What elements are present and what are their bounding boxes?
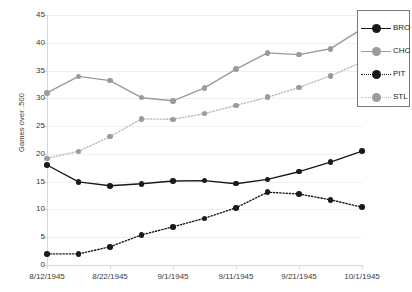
data-point-stl (170, 117, 176, 123)
legend-marker-pit (372, 70, 381, 79)
data-point-bro (76, 179, 82, 185)
data-point-chc (265, 50, 271, 56)
data-point-bro (107, 183, 113, 189)
data-point-bro (170, 178, 176, 184)
x-axis-tick (173, 265, 174, 269)
data-point-bro (359, 148, 365, 154)
data-point-chc (233, 66, 239, 72)
data-point-pit (139, 232, 145, 238)
data-point-pit (296, 191, 302, 197)
data-point-chc (328, 46, 334, 52)
data-point-pit (44, 251, 50, 257)
legend-label-pit: PIT (393, 68, 405, 80)
data-point-chc (296, 52, 302, 58)
data-point-bro (44, 162, 50, 168)
x-axis-tick-label: 8/22/1945 (75, 272, 145, 281)
data-point-stl (233, 103, 239, 109)
legend-marker-bro (372, 24, 381, 33)
data-point-stl (296, 85, 302, 91)
x-axis-tick-label: 9/1/1945 (138, 272, 208, 281)
data-point-chc (44, 90, 50, 96)
x-axis-tick-label: 9/21/1945 (264, 272, 334, 281)
data-point-pit (328, 197, 334, 203)
legend-marker-chc (372, 47, 381, 56)
legend-item-stl[interactable]: STL (358, 88, 411, 108)
series-lines (0, 0, 412, 292)
x-axis-tick-label: 9/11/1945 (201, 272, 271, 281)
legend-item-chc[interactable]: CHC (358, 42, 411, 62)
x-axis-tick (47, 265, 48, 269)
legend-item-bro[interactable]: BRO (358, 19, 411, 39)
data-point-chc (107, 78, 113, 84)
legend-label-bro: BRO (393, 22, 410, 34)
data-point-pit (170, 224, 176, 230)
data-point-pit (76, 251, 82, 257)
data-point-pit (107, 244, 113, 250)
chart-container: Games over .500 051015202530354045 8/12/… (0, 0, 412, 292)
data-point-stl (328, 73, 334, 79)
data-point-stl (107, 134, 113, 140)
legend: BROCHCPITSTL (357, 10, 410, 107)
legend-item-pit[interactable]: PIT (358, 65, 411, 85)
legend-label-chc: CHC (393, 45, 410, 57)
x-axis-tick (362, 265, 363, 269)
x-axis-tick (110, 265, 111, 269)
data-point-pit (359, 204, 365, 210)
x-axis-tick-label: 10/1/1945 (327, 272, 397, 281)
data-point-chc (170, 98, 176, 104)
series-line-pit (47, 192, 362, 254)
data-point-stl (139, 116, 145, 122)
x-axis-tick-label: 8/12/1945 (12, 272, 82, 281)
legend-marker-stl (372, 93, 381, 102)
data-point-chc (202, 85, 208, 91)
x-axis-tick (236, 265, 237, 269)
data-point-stl (44, 156, 50, 162)
data-point-pit (233, 205, 239, 211)
data-point-bro (139, 181, 145, 187)
x-axis-tick (299, 265, 300, 269)
legend-label-stl: STL (393, 91, 408, 103)
